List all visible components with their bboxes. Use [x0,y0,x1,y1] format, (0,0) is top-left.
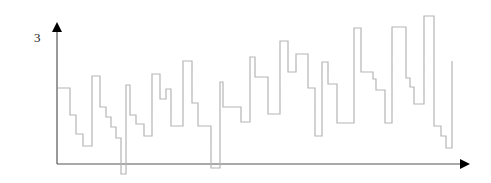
y-tick-label: 3 [34,30,41,46]
data-series-line [58,16,452,174]
y-axis-arrow-icon [52,22,62,32]
x-axis-arrow-icon [460,159,470,169]
step-line-chart [0,0,491,183]
